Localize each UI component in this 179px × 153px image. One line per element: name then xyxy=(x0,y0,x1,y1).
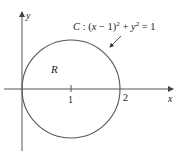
tick-label-1: 1 xyxy=(68,94,73,105)
circle-region-diagram: y x 1 2 R C : (x − 1)2 + y2 = 1 xyxy=(0,0,179,153)
eq-minus-one: − 1) xyxy=(96,21,116,33)
y-axis-label: y xyxy=(25,10,31,21)
tick-label-2: 2 xyxy=(123,92,128,103)
eq-plus: + xyxy=(120,21,131,32)
eq-prefix: : ( xyxy=(80,21,92,33)
x-axis-label: x xyxy=(167,93,173,104)
eq-rhs: = 1 xyxy=(139,21,155,32)
curve-equation-label: C : (x − 1)2 + y2 = 1 xyxy=(73,20,156,33)
region-label-r: R xyxy=(50,63,58,75)
pointer-arrow xyxy=(110,36,121,47)
